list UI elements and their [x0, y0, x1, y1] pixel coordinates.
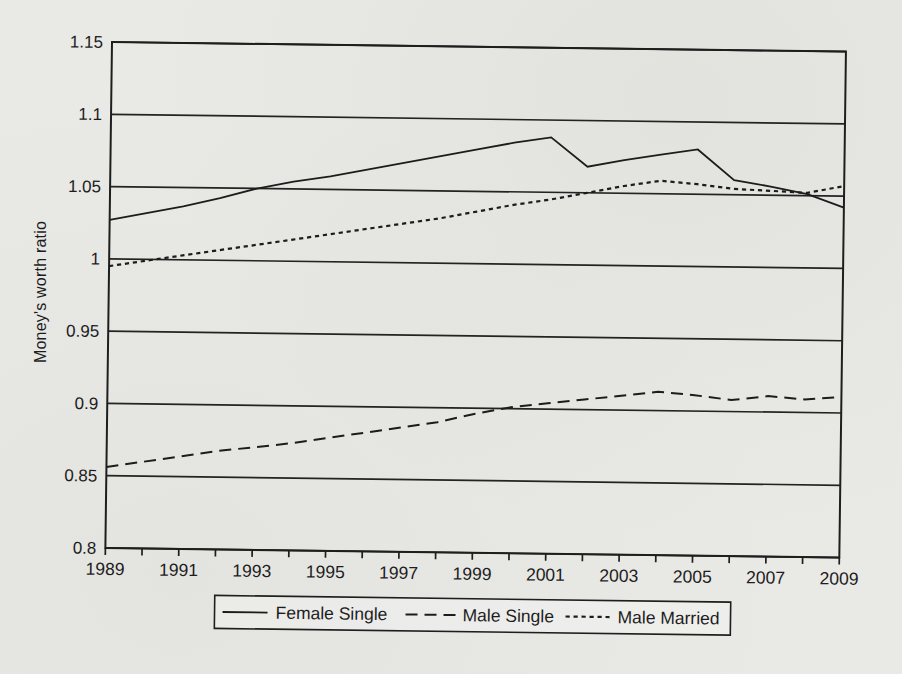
legend-label-male-married: Male Married — [617, 607, 719, 628]
y-tick-label: 0.8 — [73, 539, 97, 558]
scanned-chart-page: Money's worth ratio 0.80.850.90.9511.051… — [0, 0, 902, 674]
y-tick-label: 0.9 — [75, 394, 99, 413]
y-tick-label: 1.05 — [68, 177, 101, 196]
y-axis-label: Money's worth ratio — [32, 221, 49, 363]
x-tick-label: 2003 — [599, 565, 638, 586]
y-tick-label: 1.15 — [70, 32, 103, 51]
series-line-male-single — [106, 385, 841, 477]
legend-label-female-single: Female Single — [275, 603, 387, 624]
x-tick-label: 1997 — [379, 563, 418, 584]
moneys-worth-ratio-chart: Money's worth ratio 0.80.850.90.9511.051… — [0, 0, 902, 674]
x-tick-label: 1999 — [452, 564, 491, 585]
x-tick-label: 1989 — [86, 559, 125, 580]
legend-sample-female-single — [223, 612, 268, 613]
x-tick-label: 1993 — [232, 561, 271, 582]
x-tick-label: 2001 — [526, 564, 565, 585]
x-tick-label: 2007 — [746, 567, 785, 588]
x-tick-label: 1995 — [306, 562, 345, 583]
tilted-scan-group: 0.80.850.90.9511.051.11.1519891991199319… — [62, 32, 865, 636]
y-tick-label: 1.1 — [78, 105, 102, 124]
x-tick-label: 2009 — [819, 568, 858, 589]
gridline — [109, 259, 843, 269]
legend-label-male-single: Male Single — [462, 605, 554, 626]
gridline — [111, 114, 845, 124]
x-tick-label: 1991 — [159, 560, 198, 581]
plot-area: 0.80.850.90.9511.051.11.1519891991199319… — [62, 32, 865, 636]
gridline — [107, 403, 841, 413]
y-tick-label: 0.95 — [66, 322, 99, 341]
series-line-female-single — [110, 132, 845, 230]
gridline — [110, 187, 844, 197]
gridline — [106, 476, 840, 486]
gridline — [108, 331, 842, 341]
x-tick-label: 2005 — [673, 566, 712, 587]
y-tick-label: 0.85 — [64, 466, 97, 485]
y-tick-label: 1 — [91, 250, 101, 269]
legend-sample-male-single — [406, 614, 456, 615]
